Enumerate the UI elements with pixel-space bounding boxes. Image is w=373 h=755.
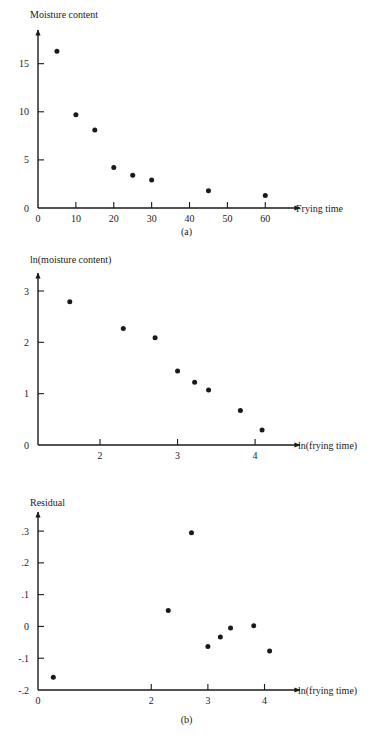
x-tick-label: 3 — [205, 695, 210, 706]
x-axis-title: ln(frying time) — [298, 685, 357, 697]
x-tick-label: 3 — [175, 450, 180, 461]
y-tick-label: 5 — [24, 154, 29, 165]
y-tick-label: .2 — [22, 557, 30, 568]
x-tick-label: 2 — [98, 450, 103, 461]
data-point — [166, 608, 171, 613]
data-point — [54, 49, 59, 54]
y-tick-label: 3 — [24, 286, 29, 297]
data-point — [130, 173, 135, 178]
panel-a: 0510150102030405060Moisture contentFryin… — [0, 0, 373, 245]
y-tick-label: .1 — [22, 589, 30, 600]
x-axis-title: ln(frying time) — [298, 440, 357, 452]
x-tick-label: 0 — [36, 213, 41, 224]
y-tick-label: 2 — [24, 337, 29, 348]
x-tick-label: 20 — [109, 213, 119, 224]
y-axis-title: ln(moisture content) — [30, 254, 111, 266]
data-point — [153, 335, 158, 340]
data-point — [228, 626, 233, 631]
x-tick-label: 10 — [71, 213, 81, 224]
x-tick-label: 0 — [36, 695, 41, 706]
y-tick-label: 0 — [24, 621, 29, 632]
x-tick-label: 40 — [185, 213, 195, 224]
panel-b: 0123234ln(moisture content)ln(frying tim… — [0, 245, 373, 488]
y-tick-label: 15 — [19, 58, 29, 69]
y-tick-label: 1 — [24, 388, 29, 399]
y-tick-label: 10 — [19, 106, 29, 117]
data-point — [73, 112, 78, 117]
data-point — [67, 299, 72, 304]
data-point — [218, 634, 223, 639]
y-tick-label: .3 — [22, 526, 30, 537]
scatter-plot-a: 0510150102030405060Moisture contentFryin… — [0, 0, 373, 245]
y-tick-label: -.2 — [18, 685, 29, 696]
data-point — [189, 530, 194, 535]
data-point — [260, 428, 265, 433]
data-point — [263, 193, 268, 198]
y-axis-title: Moisture content — [30, 9, 98, 20]
data-point — [175, 369, 180, 374]
x-tick-label: 30 — [147, 213, 157, 224]
y-axis-title: Residual — [30, 497, 65, 508]
panel-a-caption: (a) — [0, 226, 373, 237]
x-tick-label: 4 — [253, 450, 258, 461]
data-point — [251, 623, 256, 628]
data-point — [92, 128, 97, 133]
data-point — [51, 675, 56, 680]
scatter-plot-b: 0123234ln(moisture content)ln(frying tim… — [0, 245, 373, 488]
data-point — [206, 388, 211, 393]
y-tick-label: 0 — [24, 203, 29, 214]
data-point — [238, 408, 243, 413]
x-axis-title: Frying time — [296, 203, 344, 214]
x-tick-label: 2 — [149, 695, 154, 706]
scatter-plot-c: -.2-.10.1.2.30234Residualln(frying time) — [0, 488, 373, 755]
data-point — [267, 648, 272, 653]
x-tick-label: 50 — [222, 213, 232, 224]
y-tick-label: -.1 — [18, 653, 29, 664]
data-point — [192, 380, 197, 385]
data-point — [206, 188, 211, 193]
x-tick-label: 4 — [262, 695, 267, 706]
y-tick-label: 0 — [24, 440, 29, 451]
data-point — [149, 178, 154, 183]
x-tick-label: 60 — [260, 213, 270, 224]
data-point — [111, 165, 116, 170]
data-point — [121, 326, 126, 331]
data-point — [205, 644, 210, 649]
panel-c: -.2-.10.1.2.30234Residualln(frying time)… — [0, 488, 373, 755]
